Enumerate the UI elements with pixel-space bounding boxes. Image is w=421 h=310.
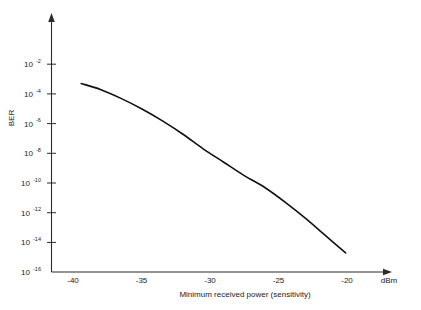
- y-tick-label: 10: [21, 238, 30, 247]
- x-axis-arrow-icon: [383, 269, 392, 276]
- y-tick-label-exponent: -14: [33, 236, 41, 242]
- x-tick-label: -40: [67, 276, 79, 285]
- y-tick-label-exponent: -6: [36, 117, 41, 123]
- x-axis-title: Minimum received power (sensitivity): [179, 290, 310, 299]
- x-tick-label: -25: [273, 276, 285, 285]
- y-tick-label: 10: [24, 60, 33, 69]
- x-axis-tick-labels: -40 -35 -30 -25 -20: [67, 276, 353, 285]
- x-tick-label: -30: [204, 276, 216, 285]
- y-tick-label: 10: [24, 149, 33, 158]
- chart-figure: 10 -2 10 -4 10 -6 10 -8 10 -10 10 -12 10…: [0, 0, 421, 310]
- y-tick-label-exponent: -12: [33, 206, 41, 212]
- ber-data-curve: [81, 84, 345, 253]
- y-tick-label: 10: [24, 120, 33, 129]
- y-tick-label-exponent: -10: [33, 177, 41, 183]
- x-tick-label: -35: [136, 276, 148, 285]
- y-tick-label-exponent: -2: [36, 58, 41, 64]
- y-axis-arrow-icon: [48, 13, 55, 22]
- y-tick-label: 10: [24, 90, 33, 99]
- y-tick-label: 10: [21, 268, 30, 277]
- y-tick-label: 10: [21, 179, 30, 188]
- y-tick-label-exponent: -8: [36, 147, 41, 153]
- x-tick-label: -20: [341, 276, 353, 285]
- y-tick-label: 10: [21, 209, 30, 218]
- y-tick-label-exponent: -16: [33, 266, 41, 272]
- chart-canvas: 10 -2 10 -4 10 -6 10 -8 10 -10 10 -12 10…: [0, 0, 421, 310]
- y-tick-label-exponent: -4: [36, 88, 41, 94]
- y-axis-title: BER: [7, 110, 16, 127]
- y-axis-tick-labels: 10 -2 10 -4 10 -6 10 -8 10 -10 10 -12 10…: [21, 58, 41, 277]
- x-axis-unit-label: dBm: [381, 276, 398, 285]
